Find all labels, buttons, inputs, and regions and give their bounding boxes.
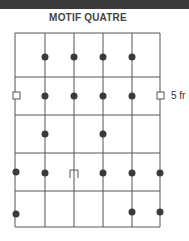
dot-marker [100, 54, 107, 61]
dot-marker [13, 211, 20, 218]
dot-marker [42, 93, 49, 100]
dot-marker [129, 170, 136, 177]
dot-marker [129, 209, 136, 216]
dot-marker [100, 131, 107, 138]
dot-marker [100, 93, 107, 100]
dot-marker [42, 131, 49, 138]
square-marker [157, 92, 164, 99]
dot-marker [71, 93, 78, 100]
dot-marker [157, 209, 164, 216]
dot-marker [129, 93, 136, 100]
grid-diagram [0, 0, 189, 241]
dot-marker [42, 170, 49, 177]
dot-marker [13, 169, 20, 176]
dot-marker [42, 54, 49, 61]
square-marker [13, 92, 20, 99]
dot-marker [100, 170, 107, 177]
dot-marker [71, 54, 78, 61]
dot-marker [157, 170, 164, 177]
annotation-label: 5 fr [171, 90, 185, 101]
dot-marker [129, 54, 136, 61]
